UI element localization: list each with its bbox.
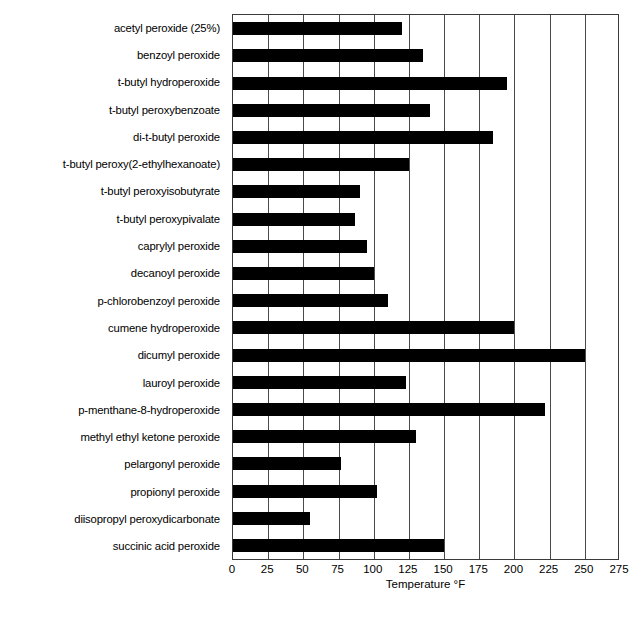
bar-row [233, 42, 618, 69]
bar [233, 321, 514, 334]
x-tick-label: 275 [609, 562, 628, 576]
bar-row [233, 423, 618, 450]
bar-row [233, 260, 618, 287]
plot-area [232, 14, 619, 560]
bar-row [233, 450, 618, 477]
bar-row [233, 341, 618, 368]
category-label: methyl ethyl ketone peroxide [0, 431, 226, 443]
bar [233, 267, 374, 280]
bar [233, 349, 585, 362]
bar [233, 457, 341, 470]
bar-row [233, 314, 618, 341]
bar-row [233, 124, 618, 151]
category-label: caprylyl peroxide [0, 240, 226, 252]
category-label: t-butyl peroxy(2-ethylhexanoate) [0, 158, 226, 170]
x-tick-label: 75 [331, 562, 344, 576]
bar [233, 22, 402, 35]
x-axis-title: Temperature °F [232, 578, 619, 590]
category-label: lauroyl peroxide [0, 377, 226, 389]
bar-row [233, 97, 618, 124]
x-tick-label: 50 [296, 562, 309, 576]
bar [233, 430, 416, 443]
bar-series [233, 15, 618, 559]
bar [233, 485, 377, 498]
bar-row [233, 233, 618, 260]
bar-row [233, 287, 618, 314]
category-label: propionyl peroxide [0, 486, 226, 498]
bar [233, 376, 406, 389]
bar [233, 539, 444, 552]
x-tick-label: 150 [433, 562, 452, 576]
bar [233, 240, 367, 253]
category-label: succinic acid peroxide [0, 540, 226, 552]
category-label: benzoyl peroxide [0, 49, 226, 61]
x-tick-label: 175 [469, 562, 488, 576]
category-label: p-chlorobenzoyl peroxide [0, 295, 226, 307]
category-label: t-butyl peroxyisobutyrate [0, 185, 226, 197]
x-tick-label: 250 [574, 562, 593, 576]
bar [233, 403, 545, 416]
category-label: t-butyl peroxypivalate [0, 213, 226, 225]
bar [233, 512, 310, 525]
bar-row [233, 178, 618, 205]
bar-row [233, 205, 618, 232]
bar [233, 77, 507, 90]
bar [233, 158, 409, 171]
bar-row [233, 396, 618, 423]
category-label: p-menthane-8-hydroperoxide [0, 404, 226, 416]
category-label: cumene hydroperoxide [0, 322, 226, 334]
bar [233, 294, 388, 307]
category-label: t-butyl hydroperoxide [0, 76, 226, 88]
bar [233, 49, 423, 62]
bar [233, 104, 430, 117]
bar-row [233, 532, 618, 559]
x-axis-tick-labels: 0255075100125150175200225250275 [232, 562, 619, 578]
category-label: di-t-butyl peroxide [0, 131, 226, 143]
bar-row [233, 369, 618, 396]
category-label: diisopropyl peroxydicarbonate [0, 513, 226, 525]
x-tick-label: 225 [539, 562, 558, 576]
category-label: pelargonyl peroxide [0, 458, 226, 470]
bar-row [233, 477, 618, 504]
category-label: acetyl peroxide (25%) [0, 22, 226, 34]
bar-row [233, 15, 618, 42]
bar [233, 213, 355, 226]
x-tick-label: 0 [229, 562, 235, 576]
bar-row [233, 505, 618, 532]
bar-chart: acetyl peroxide (25%)benzoyl peroxidet-b… [0, 0, 641, 621]
bar-row [233, 69, 618, 96]
x-tick-label: 125 [398, 562, 417, 576]
category-label: t-butyl peroxybenzoate [0, 104, 226, 116]
bar-row [233, 151, 618, 178]
category-label: dicumyl peroxide [0, 349, 226, 361]
bar [233, 185, 360, 198]
category-label: decanoyl peroxide [0, 267, 226, 279]
x-tick-label: 25 [261, 562, 274, 576]
y-axis-category-labels: acetyl peroxide (25%)benzoyl peroxidet-b… [0, 14, 226, 560]
bar [233, 131, 493, 144]
x-tick-label: 200 [504, 562, 523, 576]
x-tick-label: 100 [363, 562, 382, 576]
